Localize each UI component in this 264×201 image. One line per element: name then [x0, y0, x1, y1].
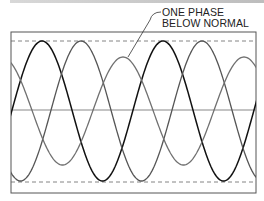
waveform-diagram: [0, 0, 264, 201]
plot-frame: [11, 32, 256, 193]
